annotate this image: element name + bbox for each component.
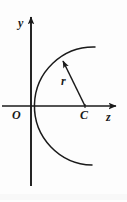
- radius-label: r: [61, 75, 66, 87]
- radius-vector-line: [63, 61, 85, 106]
- center-label: C: [80, 109, 88, 121]
- figure-canvas: y O C z r: [0, 0, 127, 202]
- diagram-svg: [0, 0, 127, 202]
- origin-label: O: [12, 109, 21, 121]
- z-axis-label: z: [106, 111, 111, 123]
- y-axis-label: y: [18, 17, 23, 29]
- scan-artifact-band: [0, 194, 127, 200]
